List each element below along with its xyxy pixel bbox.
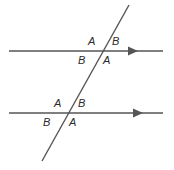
lower-line-arrowhead — [133, 109, 143, 118]
angle-label-upper-right-below: A — [103, 55, 110, 66]
geometry-diagram: A B B A A B B A — [0, 0, 174, 170]
angle-label-lower-left-below: B — [43, 117, 50, 128]
parallel-lines-transversal-svg — [0, 0, 174, 170]
angle-label-upper-left-above: A — [88, 36, 95, 47]
angle-label-lower-right-above: B — [78, 98, 85, 109]
angle-label-upper-left-below: B — [78, 55, 85, 66]
upper-line-arrowhead — [128, 47, 138, 56]
angle-label-lower-right-below: A — [69, 117, 76, 128]
transversal-line — [42, 5, 129, 161]
angle-label-upper-right-above: B — [112, 36, 119, 47]
angle-label-lower-left-above: A — [54, 98, 61, 109]
